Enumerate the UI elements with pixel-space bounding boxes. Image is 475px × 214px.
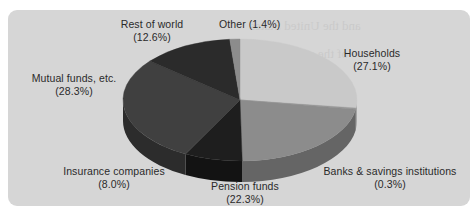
slice-label-other-name: Other (1.4%) xyxy=(219,18,280,30)
slice-label-rest-of-world-name: Rest of world xyxy=(121,18,184,30)
slice-label-banks-name: Banks & savings institutions xyxy=(324,165,457,177)
slice-label-pension-funds-value: (22.3%) xyxy=(195,193,295,206)
slice-label-pension-funds: Pension funds (22.3%) xyxy=(195,180,295,205)
slice-label-rest-of-world: Rest of world (12.6%) xyxy=(96,18,208,43)
slice-label-mutual-funds: Mutual funds, etc. (28.3%) xyxy=(14,72,134,97)
pie-chart-figure: and the United States of the stock marke… xyxy=(0,0,475,214)
slice-label-mutual-funds-value: (28.3%) xyxy=(14,85,134,98)
slice-label-insurance-name: Insurance companies xyxy=(63,165,165,177)
slice-label-other: Other (1.4%) xyxy=(219,18,280,31)
slice-label-insurance-value: (8.0%) xyxy=(47,178,181,191)
slice-label-households: Households (27.1%) xyxy=(323,47,421,72)
slice-label-pension-funds-name: Pension funds xyxy=(211,180,279,192)
slice-label-households-name: Households xyxy=(344,47,400,59)
slice-label-banks-value: (0.3%) xyxy=(310,178,470,191)
slice-label-banks: Banks & savings institutions (0.3%) xyxy=(310,165,470,190)
slice-label-mutual-funds-name: Mutual funds, etc. xyxy=(32,72,117,84)
slice-label-insurance: Insurance companies (8.0%) xyxy=(47,165,181,190)
pie-top-faces: Households (27.1%)Banks & savings instit… xyxy=(123,39,357,161)
slice-label-households-value: (27.1%) xyxy=(323,60,421,73)
slice-label-rest-of-world-value: (12.6%) xyxy=(96,31,208,44)
